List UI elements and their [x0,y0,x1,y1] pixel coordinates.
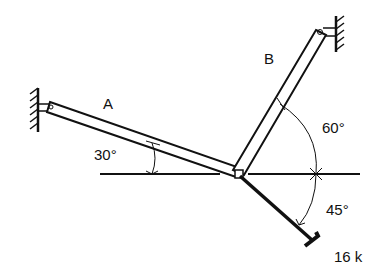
angle-b-label: 60° [322,119,345,136]
member-a [47,102,240,177]
angle-a-label: 30° [94,146,117,163]
load-magnitude-label: 16 k [334,248,363,265]
member-b-label: B [264,50,274,67]
member-a-label: A [103,95,113,112]
load-arrow [240,176,318,246]
load-angle-label: 45° [326,201,349,218]
truss-diagram: A 30° B 60° 45° 16 k [0,0,382,279]
angle-arc-b-load [280,104,316,225]
